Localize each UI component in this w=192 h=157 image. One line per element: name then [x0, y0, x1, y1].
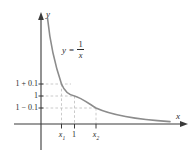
equation-annotation: y = 1 x [62, 40, 84, 59]
y-axis-label: y [46, 10, 50, 19]
y-tick-label-mid: 1 [0, 92, 38, 100]
tick-marks [39, 84, 97, 129]
equation-operator: = [69, 45, 74, 55]
math-figure: y x 1 + 0.1 1 1 − 0.1 x1 1 x2 y = 1 x [0, 0, 192, 157]
x-axis-arrowhead [180, 121, 188, 127]
x-tick-label-x2: x2 [89, 131, 103, 141]
x-tick-one-base: 1 [72, 130, 76, 139]
x-tick-label-one: 1 [69, 131, 79, 139]
y-tick-label-upper: 1 + 0.1 [0, 80, 38, 88]
x-tick-x1-subscript: 1 [62, 135, 65, 141]
curve-y-equals-one-over-x [48, 18, 171, 122]
x-tick-label-x1: x1 [55, 131, 69, 141]
y-axis-arrowhead [38, 12, 44, 20]
y-tick-label-lower: 1 − 0.1 [0, 104, 38, 112]
x-tick-x2-subscript: 2 [96, 135, 99, 141]
guide-lines [41, 84, 96, 124]
equation-numerator: 1 [77, 40, 83, 49]
equation-denominator: x [78, 50, 84, 59]
equation-fraction: 1 x [77, 40, 84, 59]
equation-lhs: y [62, 45, 66, 55]
x-axis-label: x [176, 112, 180, 121]
